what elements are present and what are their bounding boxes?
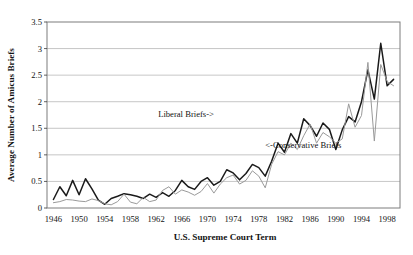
y-tick-label: 1 <box>38 150 42 160</box>
x-tick-label: 1998 <box>379 214 396 224</box>
x-tick-label: 1950 <box>70 214 87 224</box>
x-tick-label: 1986 <box>302 214 320 224</box>
x-tick-label: 1954 <box>96 214 114 224</box>
x-tick-label: 1994 <box>353 214 371 224</box>
x-tick-label: 1978 <box>250 214 267 224</box>
y-tick-label: 3.5 <box>31 17 42 27</box>
amicus-briefs-line-chart: 00.511.522.533.5 19461950195419581962196… <box>0 0 413 255</box>
x-axis-title: U.S. Supreme Court Term <box>174 232 277 242</box>
annotation-conservative-briefs: <-Conservative Briefs <box>265 140 342 150</box>
y-tick-label: 0.5 <box>31 176 42 186</box>
y-tick-label: 0 <box>38 203 42 213</box>
x-tick-label: 1966 <box>173 214 191 224</box>
y-axis-tick-labels: 00.511.522.533.5 <box>31 17 47 213</box>
x-tick-label: 1946 <box>45 214 63 224</box>
y-tick-label: 1.5 <box>31 123 42 133</box>
x-tick-label: 1982 <box>276 214 293 224</box>
x-tick-label: 1962 <box>148 214 165 224</box>
x-tick-label: 1970 <box>199 214 216 224</box>
x-tick-label: 1974 <box>225 214 243 224</box>
x-axis-tick-labels: 1946195019541958196219661970197419781982… <box>45 214 396 224</box>
y-tick-label: 2.5 <box>31 70 42 80</box>
x-tick-label: 1990 <box>327 214 344 224</box>
y-tick-label: 3 <box>38 44 42 54</box>
chart-figure: 00.511.522.533.5 19461950195419581962196… <box>0 0 413 255</box>
y-tick-label: 2 <box>38 97 42 107</box>
y-axis-title: Average Number of Amicus Briefs <box>6 48 16 182</box>
x-tick-label: 1958 <box>122 214 139 224</box>
annotation-liberal-briefs: Liberal Briefs-> <box>158 109 214 119</box>
